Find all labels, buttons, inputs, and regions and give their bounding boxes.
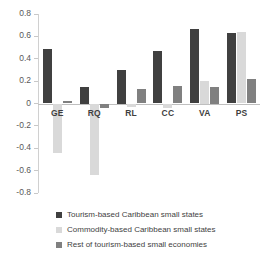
bar[interactable] <box>247 79 256 104</box>
legend-item[interactable]: Commodity-based Caribbean small states <box>56 223 266 237</box>
bar[interactable] <box>190 29 199 104</box>
bar[interactable] <box>227 33 236 103</box>
legend-item[interactable]: Rest of tourism-based small economies <box>56 238 266 252</box>
bar-group: RQ <box>76 14 113 193</box>
bar-slot <box>80 14 89 193</box>
x-axis-category-label: GE <box>39 108 76 118</box>
x-axis-category-label: CC <box>149 108 186 118</box>
y-tick-mark <box>34 58 38 59</box>
bar[interactable] <box>127 104 136 107</box>
bar-slot <box>153 14 162 193</box>
bar-group-bars <box>39 14 76 193</box>
bar-slot <box>247 14 256 193</box>
bar-slot <box>200 14 209 193</box>
y-tick-mark <box>34 14 38 15</box>
bar[interactable] <box>200 81 209 103</box>
legend-swatch-icon <box>56 227 62 233</box>
bar[interactable] <box>117 70 126 104</box>
bar[interactable] <box>237 32 246 104</box>
bar-group-bars <box>186 14 223 193</box>
y-tick-label: 0.4 <box>19 53 31 64</box>
bar-group-bars <box>76 14 113 193</box>
bar-slot <box>53 14 62 193</box>
x-axis-category-label: VA <box>186 108 223 118</box>
y-tick-mark <box>34 170 38 171</box>
bar-slot <box>127 14 136 193</box>
y-tick-label: 0.6 <box>19 30 31 41</box>
bar-slot <box>237 14 246 193</box>
bar-slot <box>90 14 99 193</box>
y-tick-label: 0.2 <box>19 75 31 86</box>
y-tick-label: -0.6 <box>16 165 31 176</box>
bar[interactable] <box>63 101 72 103</box>
bar[interactable] <box>210 87 219 104</box>
bar-slot <box>190 14 199 193</box>
y-tick-mark <box>34 148 38 149</box>
bar-chart: 0.80.60.40.20-0.2-0.4-0.6-0.8 GERQRLCCVA… <box>0 0 270 260</box>
bar-slot <box>137 14 146 193</box>
bar-group: VA <box>186 14 223 193</box>
legend-swatch-icon <box>56 212 62 218</box>
legend-item[interactable]: Tourism-based Caribbean small states <box>56 208 266 222</box>
bar-group: PS <box>223 14 260 193</box>
bar-group-bars <box>149 14 186 193</box>
bar[interactable] <box>80 87 89 104</box>
legend-label: Commodity-based Caribbean small states <box>67 225 216 235</box>
bar-slot <box>163 14 172 193</box>
bar-slot <box>63 14 72 193</box>
bar-slot <box>43 14 52 193</box>
bar-group-bars <box>223 14 260 193</box>
legend-label: Rest of tourism-based small economies <box>67 240 207 250</box>
bar-group: RL <box>113 14 150 193</box>
bar-slot <box>227 14 236 193</box>
x-axis-category-label: PS <box>223 108 260 118</box>
bar-group: GE <box>39 14 76 193</box>
bar[interactable] <box>43 49 52 104</box>
y-tick-label: 0.8 <box>19 8 31 19</box>
bar-group-bars <box>113 14 150 193</box>
bar-slot <box>210 14 219 193</box>
x-axis-category-label: RL <box>113 108 150 118</box>
x-axis-category-label: RQ <box>76 108 113 118</box>
bar-slot <box>117 14 126 193</box>
legend-swatch-icon <box>56 242 62 248</box>
chart-legend: Tourism-based Caribbean small statesComm… <box>56 208 266 253</box>
bar-group: CC <box>149 14 186 193</box>
y-tick-label: 0 <box>26 98 31 109</box>
bar[interactable] <box>137 89 146 104</box>
bar-slot <box>100 14 109 193</box>
bar[interactable] <box>173 86 182 104</box>
legend-label: Tourism-based Caribbean small states <box>67 210 203 220</box>
y-tick-label: -0.2 <box>16 120 31 131</box>
bar-slot <box>173 14 182 193</box>
y-tick-label: -0.8 <box>16 187 31 198</box>
y-tick-mark <box>34 125 38 126</box>
y-tick-mark <box>34 36 38 37</box>
y-tick-label: -0.4 <box>16 142 31 153</box>
y-tick-mark <box>34 193 38 194</box>
bar[interactable] <box>153 51 162 104</box>
plot-area: 0.80.60.40.20-0.2-0.4-0.6-0.8 GERQRLCCVA… <box>38 14 260 193</box>
bar-groups: GERQRLCCVAPS <box>39 14 260 193</box>
y-tick-mark <box>34 81 38 82</box>
